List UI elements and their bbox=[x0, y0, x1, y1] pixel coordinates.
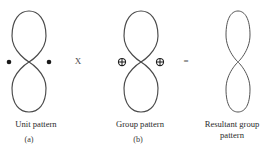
filled-dot-icon-right bbox=[47, 60, 52, 65]
pattern-multiplication-figure: X = Unit pattern Group pattern Resultant… bbox=[0, 0, 269, 149]
caption-group-pattern: Group pattern bbox=[104, 119, 176, 130]
upper-lobe bbox=[124, 11, 158, 62]
resultant-group-pattern-shape bbox=[226, 11, 250, 112]
upper-lobe bbox=[12, 11, 46, 62]
group-pattern-shape bbox=[118, 11, 163, 112]
equals-operator: = bbox=[178, 57, 194, 66]
lower-lobe bbox=[12, 62, 46, 112]
caption-resultant-group-pattern: Resultant group pattern bbox=[196, 119, 268, 140]
upper-lobe bbox=[226, 11, 250, 62]
sublabel-b: (b) bbox=[113, 135, 163, 145]
unit-pattern-shape bbox=[7, 11, 52, 112]
sublabel-a: (a) bbox=[4, 135, 54, 145]
lower-lobe bbox=[226, 62, 250, 112]
circled-plus-icon-left bbox=[118, 58, 125, 65]
caption-unit-pattern: Unit pattern bbox=[0, 119, 72, 130]
lower-lobe bbox=[124, 62, 158, 112]
filled-dot-icon-left bbox=[7, 60, 12, 65]
circled-plus-icon-right bbox=[156, 58, 163, 65]
multiply-operator: X bbox=[70, 57, 86, 66]
